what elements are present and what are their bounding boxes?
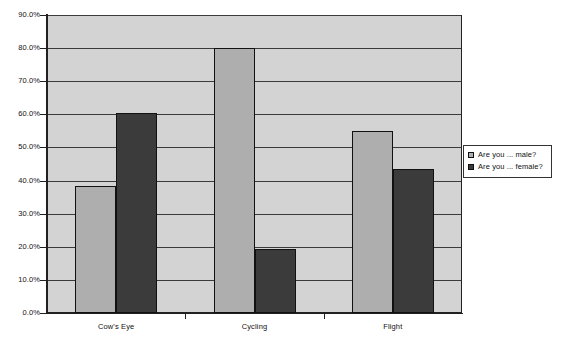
x-axis-line bbox=[46, 313, 463, 314]
gridline bbox=[48, 81, 461, 82]
y-axis-tick bbox=[40, 247, 47, 248]
gridline bbox=[48, 114, 461, 115]
gridline bbox=[48, 48, 461, 49]
legend-swatch-male bbox=[468, 152, 474, 158]
bar-female bbox=[116, 113, 157, 313]
x-axis-tick bbox=[185, 313, 186, 319]
legend-label: Are you ... male? bbox=[478, 150, 536, 159]
y-axis-tick bbox=[40, 15, 47, 16]
bar-male bbox=[214, 48, 255, 313]
y-axis-tick-labels: 0.0%10.0%20.0%30.0%40.0%50.0%60.0%70.0%8… bbox=[0, 0, 40, 345]
y-axis-tick bbox=[40, 81, 47, 82]
y-axis-tick-label: 10.0% bbox=[0, 276, 40, 284]
bar-male bbox=[352, 131, 393, 313]
y-axis-tick-label: 60.0% bbox=[0, 110, 40, 118]
legend-swatch-female bbox=[468, 164, 474, 170]
y-axis-line bbox=[46, 14, 48, 314]
y-axis-tick-label: 20.0% bbox=[0, 243, 40, 251]
y-axis-tick bbox=[40, 181, 47, 182]
gridline bbox=[48, 147, 461, 148]
x-axis-category-label: Cow's Eye bbox=[47, 322, 185, 331]
x-axis-tick bbox=[324, 313, 325, 319]
y-axis-tick bbox=[40, 114, 47, 115]
bar-chart: 0.0%10.0%20.0%30.0%40.0%50.0%60.0%70.0%8… bbox=[0, 0, 562, 345]
y-axis-tick bbox=[40, 313, 47, 314]
x-axis-category-label: Flight bbox=[324, 322, 462, 331]
x-axis-category-label: Cycling bbox=[185, 322, 323, 331]
y-axis-tick-label: 80.0% bbox=[0, 44, 40, 52]
y-axis-tick-label: 90.0% bbox=[0, 11, 40, 19]
y-axis-tick bbox=[40, 280, 47, 281]
y-axis-tick-label: 70.0% bbox=[0, 77, 40, 85]
chart-legend: Are you ... male?Are you ... female? bbox=[463, 145, 552, 178]
y-axis-tick-label: 50.0% bbox=[0, 143, 40, 151]
bar-female bbox=[255, 249, 296, 313]
bar-female bbox=[393, 169, 434, 313]
y-axis-tick-label: 0.0% bbox=[0, 309, 40, 317]
y-axis-tick bbox=[40, 48, 47, 49]
y-axis-tick bbox=[40, 214, 47, 215]
legend-item[interactable]: Are you ... female? bbox=[468, 161, 547, 172]
bar-male bbox=[75, 186, 116, 313]
y-axis-tick-label: 40.0% bbox=[0, 177, 40, 185]
gridline bbox=[48, 15, 461, 16]
legend-label: Are you ... female? bbox=[478, 162, 543, 171]
legend-item[interactable]: Are you ... male? bbox=[468, 149, 547, 160]
y-axis-tick bbox=[40, 147, 47, 148]
y-axis-tick-label: 30.0% bbox=[0, 210, 40, 218]
